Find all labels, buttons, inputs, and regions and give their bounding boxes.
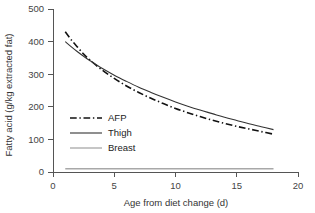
legend-label-breast: Breast (108, 142, 136, 153)
x-tick-label: 0 (50, 180, 55, 191)
y-tick-label: 0 (39, 166, 44, 177)
x-tick-label: 10 (170, 180, 181, 191)
y-tick-label: 100 (28, 134, 44, 145)
x-axis: 05101520 (50, 172, 303, 191)
x-axis-title: Age from diet change (d) (124, 197, 229, 208)
series-line-afp (65, 32, 273, 134)
chart-legend: AFPThighBreast (70, 112, 136, 153)
y-axis: 0100200300400500 (28, 3, 53, 177)
x-tick-label: 15 (231, 180, 242, 191)
y-axis-title: Fatty acid (g/kg extracted fat) (3, 33, 14, 156)
series-line-thigh (65, 42, 273, 130)
y-tick-label: 300 (28, 69, 44, 80)
x-tick-label: 20 (293, 180, 304, 191)
y-tick-group: 0100200300400500 (28, 3, 53, 177)
x-tick-label: 5 (112, 180, 117, 191)
line-chart: 0100200300400500 05101520 Age from diet … (0, 0, 315, 213)
y-tick-label: 400 (28, 36, 44, 47)
y-tick-label: 500 (28, 3, 44, 14)
chart-figure: 0100200300400500 05101520 Age from diet … (0, 0, 315, 213)
legend-label-thigh: Thigh (108, 127, 132, 138)
x-tick-group: 05101520 (50, 172, 303, 191)
legend-label-afp: AFP (108, 112, 126, 123)
y-tick-label: 200 (28, 101, 44, 112)
